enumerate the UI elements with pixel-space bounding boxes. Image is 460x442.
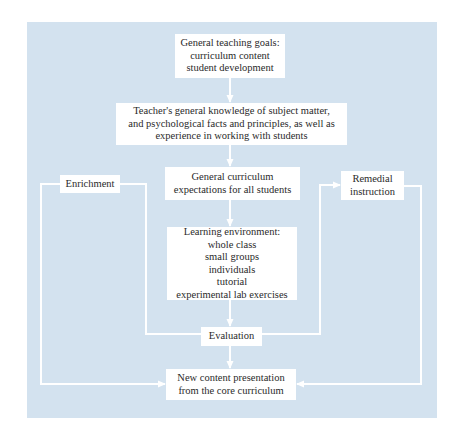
node-text: and psychological facts and principles, … [128,118,334,131]
node-text: individuals [209,264,256,277]
node-text: Learning environment: [184,226,281,239]
node-text: tutorial [217,276,247,289]
node-text: instruction [350,186,395,199]
node-text: expectations for all students [174,184,292,197]
node-text: General curriculum [192,171,274,184]
node-text: curriculum content [190,50,270,63]
node-text: small groups [205,251,259,264]
new-content-box: New content presentation from the core c… [166,369,296,400]
enrichment-box: Enrichment [60,175,120,193]
node-text: Teacher's general knowledge of subject m… [133,105,330,118]
node-text: Enrichment [66,178,115,191]
learning-environment-box: Learning environment: whole class small … [167,227,297,300]
node-text: New content presentation [177,372,284,385]
node-text: Evaluation [209,330,255,343]
node-text: experience in working with students [155,130,307,143]
node-text: Remedial [352,173,392,186]
remedial-instruction-box: Remedial instruction [341,171,404,200]
node-text: General teaching goals: [180,37,279,50]
node-text: whole class [208,239,257,252]
evaluation-box: Evaluation [201,327,262,346]
node-text: student development [186,62,273,75]
curriculum-expectations-box: General curriculum expectations for all … [165,167,300,200]
teacher-knowledge-box: Teacher's general knowledge of subject m… [116,103,347,145]
node-text: from the core curriculum [178,385,283,398]
teaching-goals-box: General teaching goals: curriculum conte… [175,34,285,78]
node-text: experimental lab exercises [176,289,287,302]
